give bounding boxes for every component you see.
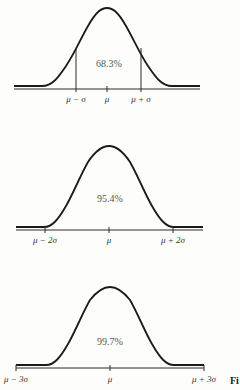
tick-label-plus-3sigma: μ + 3σ bbox=[191, 374, 217, 384]
percent-label-3: 99.7% bbox=[97, 336, 123, 347]
tick-label-plus-2sigma: μ + 2σ bbox=[160, 235, 186, 245]
figure-caption: Fi bbox=[230, 375, 239, 386]
bell-curve-3 bbox=[16, 287, 204, 365]
normal-distribution-figure: 68.3% μ − σ μ μ + σ 95.4% μ − 2σ μ μ + 2… bbox=[0, 0, 240, 390]
tick-label-mu-1: μ bbox=[104, 94, 110, 104]
tick-label-minus-3sigma: μ − 3σ bbox=[3, 374, 29, 384]
percent-label-1: 68.3% bbox=[96, 58, 122, 69]
panel-2-sigma: 95.4% μ − 2σ μ μ + 2σ bbox=[16, 146, 203, 245]
tick-label-mu-3: μ bbox=[107, 374, 113, 384]
tick-label-minus-sigma: μ − σ bbox=[65, 94, 86, 104]
panel-1-sigma: 68.3% μ − σ μ μ + σ bbox=[14, 8, 200, 104]
tick-label-minus-2sigma: μ − 2σ bbox=[32, 235, 58, 245]
panel-3-sigma: 99.7% μ − 3σ μ μ + 3σ bbox=[3, 287, 217, 384]
percent-label-2: 95.4% bbox=[97, 193, 123, 204]
bell-curve-1 bbox=[14, 8, 200, 86]
tick-label-mu-2: μ bbox=[106, 235, 112, 245]
tick-label-plus-sigma: μ + σ bbox=[130, 94, 151, 104]
bell-curve-2 bbox=[16, 146, 203, 227]
